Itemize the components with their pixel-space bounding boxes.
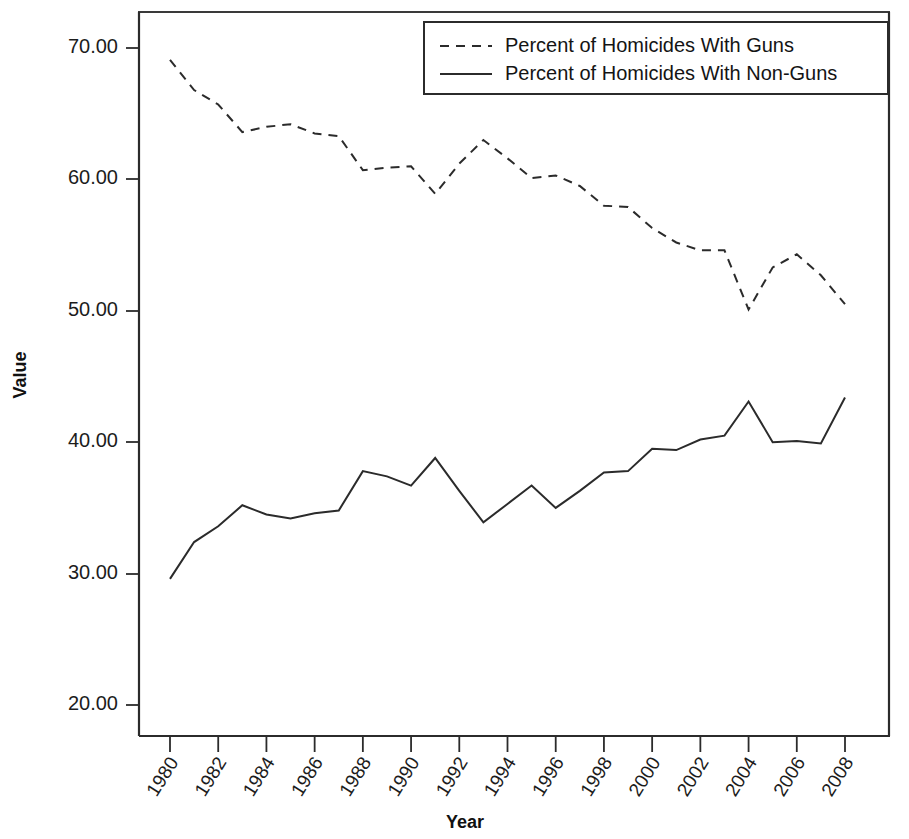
legend-label-guns: Percent of Homicides With Guns xyxy=(505,34,794,56)
x-tick-label-1980: 1980 xyxy=(142,753,182,800)
x-tick-label-2006: 2006 xyxy=(769,753,809,800)
x-tick-label-1998: 1998 xyxy=(576,753,616,800)
x-tick-label-2000: 2000 xyxy=(624,753,664,800)
y-tick-label-30: 30.00 xyxy=(68,561,118,583)
series-line-non-guns xyxy=(170,398,845,579)
y-tick-label-50: 50.00 xyxy=(68,298,118,320)
x-tick-label-1996: 1996 xyxy=(528,753,568,800)
chart-legend: Percent of Homicides With Guns Percent o… xyxy=(424,22,888,94)
x-tick-label-1990: 1990 xyxy=(383,753,423,800)
y-tick-label-40: 40.00 xyxy=(68,429,118,451)
y-tick-label-70: 70.00 xyxy=(68,35,118,57)
x-tick-label-1984: 1984 xyxy=(239,753,279,800)
x-tick-label-2008: 2008 xyxy=(817,753,857,800)
y-tick-label-20: 20.00 xyxy=(68,692,118,714)
y-tick-label-60: 60.00 xyxy=(68,166,118,188)
x-tick-label-1994: 1994 xyxy=(480,753,520,800)
x-tick-label-2004: 2004 xyxy=(721,753,761,800)
x-tick-label-1982: 1982 xyxy=(190,753,230,800)
x-axis-ticks: 1980198219841986198819901992199419961998… xyxy=(142,736,857,800)
legend-label-non-guns: Percent of Homicides With Non-Guns xyxy=(505,62,837,84)
chart-container: 70.00 60.00 50.00 40.00 30.00 20.00 1980… xyxy=(0,0,909,839)
x-tick-label-2002: 2002 xyxy=(673,753,713,800)
line-chart: 70.00 60.00 50.00 40.00 30.00 20.00 1980… xyxy=(0,0,909,839)
series-line-guns xyxy=(170,60,845,310)
y-axis-ticks: 70.00 60.00 50.00 40.00 30.00 20.00 xyxy=(68,35,139,714)
x-tick-label-1992: 1992 xyxy=(431,753,471,800)
x-axis-title: Year xyxy=(446,812,484,832)
y-axis-title: Value xyxy=(10,351,30,398)
x-tick-label-1986: 1986 xyxy=(287,753,327,800)
x-tick-label-1988: 1988 xyxy=(335,753,375,800)
series-group xyxy=(170,60,845,579)
